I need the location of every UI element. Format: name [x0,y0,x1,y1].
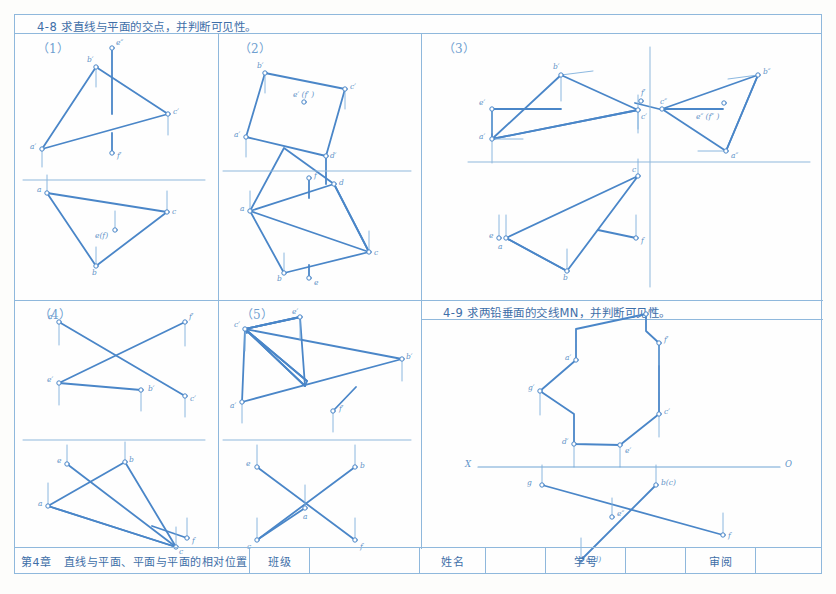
point-label: e′ [479,98,485,107]
point-label: b [360,461,365,470]
point-label: b″ [763,67,771,76]
title-block: 第4章 直线与平面、平面与平面的相对位置 班级 姓名 学号 审阅 [15,547,821,573]
class-label: 班级 [250,548,310,573]
point-label: d [339,178,344,187]
point-label: c [172,207,176,216]
point-label: b [92,268,97,277]
point-label: a″ [731,151,738,160]
point-label: e″ [617,509,624,518]
point-label: b′ [87,55,94,64]
point-label: b [277,274,282,283]
point-label: b [129,455,134,464]
divider-col-3 [218,300,219,549]
point-label: b′ [651,306,658,315]
point-label: a′ [234,130,240,139]
point-label: a [303,512,307,521]
panel-number-3: （3） [443,39,475,56]
point-label: b′ [257,61,264,70]
panel-number-2: （2） [239,39,271,56]
point-label: b′ [553,62,560,71]
point-label: g′ [528,383,535,392]
point-label: e″ (f″ ) [696,112,719,121]
point-label: c′ [664,407,670,416]
divider-col-2 [421,34,422,549]
point-label: c′ [190,394,196,403]
point-label: c″ [660,97,667,106]
id-value[interactable] [626,548,686,573]
projection-drawings [15,15,823,575]
point-label: c [632,165,636,174]
point-label: f′ [641,88,645,97]
point-label: a [498,242,502,251]
point-label: e′ (f′ ) [293,90,314,99]
id-label: 学号 [546,548,626,573]
divider-col-1 [218,34,219,300]
point-label: d′ [330,151,337,160]
point-label: c′ [234,320,240,329]
point-label: a′ [230,401,236,410]
point-label: f [314,171,317,180]
point-label: d′ [562,437,569,446]
chapter-title: 直线与平面、平面与平面的相对位置 [64,553,248,569]
point-label: b′ [148,384,155,393]
point-label: e′ [47,375,53,384]
point-label: e [489,231,493,240]
review-value[interactable] [756,548,821,573]
axis-label-x: X [465,459,471,469]
point-label: e′ [625,446,631,455]
point-label: a [38,499,42,508]
name-label: 姓名 [420,548,486,573]
point-label: a [240,204,244,213]
chapter-cell: 第4章 直线与平面、平面与平面的相对位置 [15,548,250,573]
name-value[interactable] [486,548,546,573]
point-label: a [37,185,41,194]
worksheet-paper: 4-8 求直线与平面的交点，并判断可见性。 4-9 求两铅垂面的交线MN，并判断… [14,14,822,574]
point-label: f [728,531,731,540]
problem-48-title: 4-8 求直线与平面的交点，并判断可见性。 [37,18,257,34]
point-label: e(f) [95,231,108,240]
point-label: a′ [30,142,36,151]
worksheet-sheet: 4-8 求直线与平面的交点，并判断可见性。 4-9 求两铅垂面的交线MN，并判断… [0,0,836,594]
point-label: a′ [48,312,54,321]
point-label: f′ [117,151,121,160]
point-label: g [527,478,532,487]
problem-49-title: 4-9 求两铅垂面的交线MN，并判断可见性。 [443,304,671,320]
point-label: a′ [565,353,571,362]
chapter-number: 第4章 [21,553,52,569]
point-label: f [641,236,644,245]
point-label: c′ [173,107,179,116]
point-label: f′ [339,404,343,413]
point-label: f [192,536,195,545]
point-label: b [563,273,568,282]
point-label: e′ [292,307,298,316]
point-label: e [57,456,61,465]
point-label: f′ [664,335,668,344]
point-label: b′ [406,352,413,361]
axis-label-o: O [785,459,792,469]
panel-number-1: （1） [37,39,69,56]
review-label: 审阅 [686,548,756,573]
point-label: c [374,248,378,257]
point-label: b(c) [661,478,676,487]
point-label: e″ [116,38,123,47]
point-label: e [246,459,250,468]
point-label: f′ [189,312,193,321]
class-value[interactable] [310,548,420,573]
point-label: c′ [641,112,647,121]
panel-number-4: （4） [39,305,71,322]
point-label: a′ [479,132,485,141]
panel-number-5: （5） [241,305,273,322]
point-label: c′ [350,82,356,91]
point-label: e [314,278,318,287]
